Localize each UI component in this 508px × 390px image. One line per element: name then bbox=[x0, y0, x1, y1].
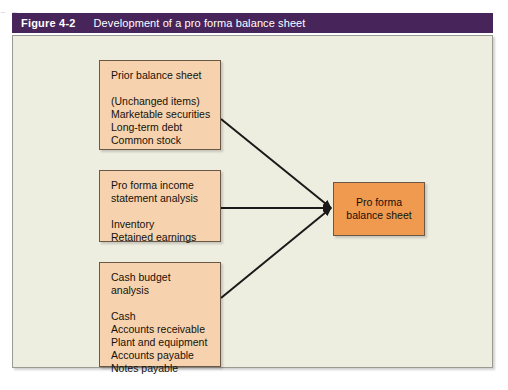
connector-prior-to-target bbox=[221, 119, 331, 208]
node-spacer bbox=[111, 205, 220, 218]
figure-panel: Prior balance sheet (Unchanged items) Ma… bbox=[12, 35, 493, 368]
node-heading: balance sheet bbox=[346, 209, 411, 222]
node-heading: Cash budget bbox=[111, 271, 220, 284]
node-item: Accounts receivable bbox=[111, 323, 220, 336]
node-item: (Unchanged items) bbox=[111, 95, 220, 108]
node-heading: Pro forma income bbox=[111, 179, 220, 192]
node-item: Inventory bbox=[111, 218, 220, 231]
node-item: Long-term debt bbox=[111, 121, 220, 134]
node-pro-forma-balance-sheet[interactable]: Pro forma balance sheet bbox=[333, 182, 425, 236]
node-heading: Prior balance sheet bbox=[111, 69, 220, 82]
node-item: Retained earnings bbox=[111, 231, 220, 244]
connector-cash-to-target bbox=[221, 208, 331, 298]
node-prior-balance-sheet[interactable]: Prior balance sheet (Unchanged items) Ma… bbox=[99, 60, 221, 150]
node-heading: Pro forma bbox=[356, 196, 402, 209]
node-item: Notes payable bbox=[111, 362, 220, 375]
scan-text-remnant: p g bbox=[0, 0, 508, 13]
node-pro-forma-income-statement[interactable]: Pro forma income statement analysis Inve… bbox=[99, 170, 221, 242]
figure-number: Figure 4-2 bbox=[21, 17, 76, 29]
node-spacer bbox=[111, 82, 220, 95]
node-item: Cash bbox=[111, 310, 220, 323]
node-heading: analysis bbox=[111, 284, 220, 297]
diagram-canvas: Prior balance sheet (Unchanged items) Ma… bbox=[13, 36, 492, 367]
node-item: Common stock bbox=[111, 134, 220, 147]
figure-title: Development of a pro forma balance sheet bbox=[94, 17, 306, 29]
figure-container: Figure 4-2 Development of a pro forma ba… bbox=[12, 13, 493, 370]
node-heading: statement analysis bbox=[111, 192, 220, 205]
node-item: Accounts payable bbox=[111, 349, 220, 362]
figure-caption-bar: Figure 4-2 Development of a pro forma ba… bbox=[12, 13, 493, 33]
node-cash-budget-analysis[interactable]: Cash budget analysis Cash Accounts recei… bbox=[99, 262, 221, 367]
node-item: Marketable securities bbox=[111, 108, 220, 121]
node-spacer bbox=[111, 297, 220, 310]
node-item: Plant and equipment bbox=[111, 336, 220, 349]
